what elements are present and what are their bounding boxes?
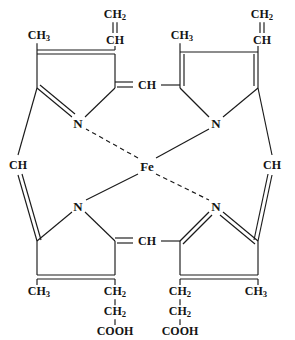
atom-label-n-bottom-right: N xyxy=(210,200,221,213)
atom-label-propionate-right-ch2-a: CH2 xyxy=(168,285,192,299)
atom-label-vinyl-left-ch: CH xyxy=(105,34,125,46)
bond-tl-n-to-right-vertex xyxy=(85,88,115,117)
heme-structure-diagram: Fe N N N N CH CH CH CH CH3 CH3 CH3 CH3 C… xyxy=(0,0,295,340)
atom-label-meso-right: CH xyxy=(262,159,282,171)
bond-fe-n-bottom-left-solid xyxy=(86,174,138,200)
atom-label-vinyl-right-ch: CH xyxy=(252,34,272,46)
bond-bl-n-to-right xyxy=(85,212,115,241)
atom-label-methyl-top-left: CH3 xyxy=(27,29,51,43)
bond-br-n-to-right-double xyxy=(220,212,258,244)
bond-vinyl-left-double xyxy=(113,22,117,33)
atom-label-methyl-bottom-left: CH3 xyxy=(27,285,51,299)
bond-tr-right-side-double xyxy=(254,52,258,88)
atom-label-meso-bottom: CH xyxy=(137,235,157,247)
bond-tl-to-n-double xyxy=(37,85,75,117)
atom-label-methyl-top-right: CH3 xyxy=(170,29,194,43)
atom-label-methyl-bottom-right: CH3 xyxy=(244,285,268,299)
bond-meso-top-left-double xyxy=(115,82,133,87)
atom-label-meso-left: CH xyxy=(8,159,28,171)
bond-meso-left-upper xyxy=(18,88,37,155)
bond-br-bottom-double xyxy=(180,275,258,279)
atom-label-propionate-right-cooh: COOH xyxy=(161,325,200,337)
bond-tr-left-side-double xyxy=(180,52,184,88)
bond-bl-bottom-double xyxy=(37,275,115,279)
atom-label-n-bottom-left: N xyxy=(72,200,83,213)
bond-vinyl-right-double xyxy=(260,22,264,33)
bond-tr-left-to-n xyxy=(180,88,209,117)
bond-meso-bottom-left-double xyxy=(115,238,133,243)
atom-label-meso-top: CH xyxy=(137,79,157,91)
bond-meso-right-upper xyxy=(258,88,272,155)
bond-meso-right-lower-double xyxy=(254,174,272,241)
bond-fe-n-top-left-dashed xyxy=(86,129,138,158)
bond-meso-left-lower-double xyxy=(18,174,41,241)
bond-tl-top-double xyxy=(37,50,115,54)
atom-label-propionate-left-cooh: COOH xyxy=(96,325,135,337)
bond-fe-n-bottom-right-dashed xyxy=(156,174,209,200)
atom-label-n-top-left: N xyxy=(72,117,83,130)
atom-label-propionate-left-ch2-b: CH2 xyxy=(103,305,127,319)
atom-label-propionate-right-ch2-b: CH2 xyxy=(168,305,192,319)
atom-label-n-top-right: N xyxy=(210,117,221,130)
bond-tr-n-to-right xyxy=(223,88,258,117)
atom-label-fe: Fe xyxy=(139,160,155,173)
bond-bl-left-to-n xyxy=(37,212,72,241)
bond-fe-n-top-right-solid xyxy=(156,129,209,158)
atom-label-vinyl-right-ch2: CH2 xyxy=(250,8,274,22)
bond-br-left-to-n-double xyxy=(180,212,212,244)
atom-label-propionate-left-ch2-a: CH2 xyxy=(103,285,127,299)
atom-label-vinyl-left-ch2: CH2 xyxy=(103,8,127,22)
